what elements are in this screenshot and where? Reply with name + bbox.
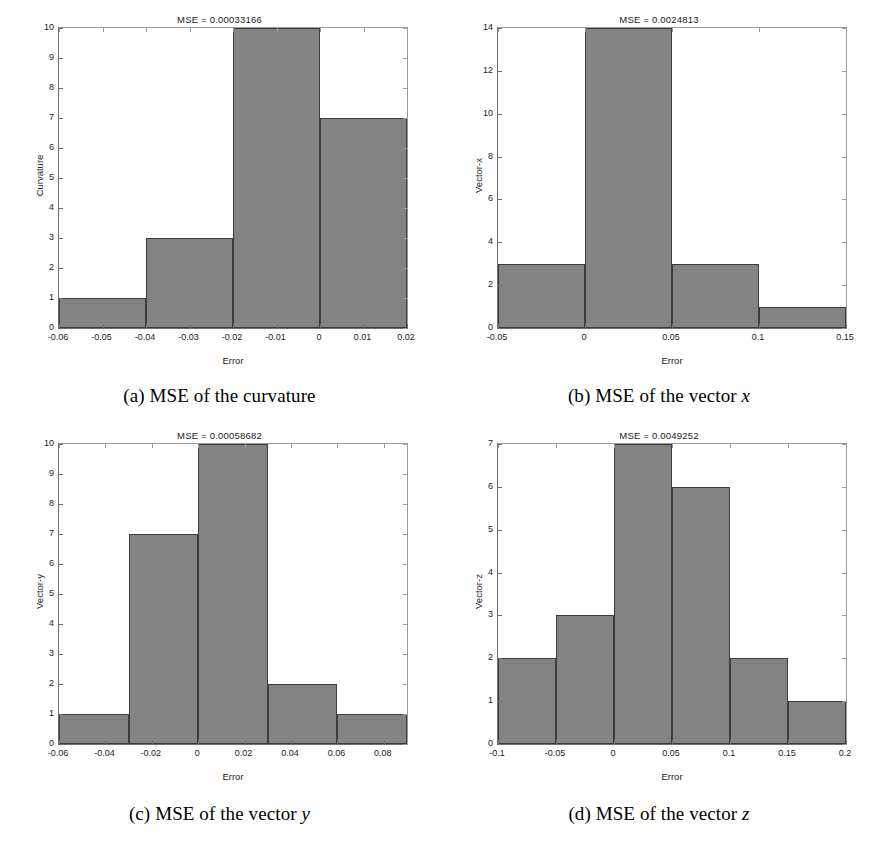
x-axis-tick-top — [364, 28, 365, 32]
y-axis-tick-label: 9 — [24, 52, 54, 62]
histogram-bar — [614, 444, 672, 744]
x-axis-tick — [407, 324, 408, 328]
histogram-bar — [59, 714, 129, 744]
y-axis-tick-right — [842, 530, 846, 531]
caption-b: (b) MSE of the vector x — [439, 385, 879, 407]
histogram-bar — [498, 658, 556, 744]
x-axis-tick-label: 0.15 — [836, 332, 854, 342]
y-axis-tick — [498, 530, 502, 531]
y-axis-tick — [59, 178, 63, 179]
y-axis-tick — [498, 658, 502, 659]
x-axis-tick — [291, 740, 292, 744]
x-axis-tick-top — [846, 444, 847, 448]
y-axis-tick-label: 8 — [24, 82, 54, 92]
y-axis-tick-label: 2 — [463, 652, 493, 662]
caption-a-text: (a) MSE of the curvature — [123, 385, 315, 406]
y-axis-tick-label: 9 — [24, 468, 54, 478]
histogram-bar — [556, 615, 614, 744]
y-axis-tick — [498, 615, 502, 616]
x-axis-tick-top — [320, 28, 321, 32]
y-axis-tick-right — [403, 624, 407, 625]
x-axis-tick-top — [146, 28, 147, 32]
y-axis-tick-label: 14 — [463, 22, 493, 32]
y-axis-tick — [498, 328, 502, 329]
y-axis-tick-label: 4 — [463, 236, 493, 246]
y-axis-tick-label: 4 — [24, 618, 54, 628]
histogram-bar — [129, 534, 199, 744]
x-axis-tick — [585, 324, 586, 328]
y-axis-tick-label: 4 — [24, 202, 54, 212]
y-axis-tick-right — [842, 744, 846, 745]
x-axis-tick-label: 0.04 — [281, 748, 299, 758]
plot-title-a: MSE = 0.00033166 — [0, 14, 439, 25]
y-axis-tick — [59, 744, 63, 745]
histogram-bar — [337, 714, 407, 744]
y-axis-tick-right — [403, 474, 407, 475]
axes-a — [58, 27, 408, 329]
x-axis-tick-label: -0.03 — [178, 332, 199, 342]
y-axis-tick-label: 10 — [24, 22, 54, 32]
x-axis-tick — [672, 324, 673, 328]
caption-c-text: (c) MSE of the vector — [129, 803, 302, 824]
y-axis-tick-label: 7 — [24, 112, 54, 122]
plot-title-b: MSE = 0.0024813 — [439, 14, 879, 25]
y-axis-tick-right — [403, 504, 407, 505]
y-axis-tick — [59, 268, 63, 269]
x-axis-tick-top — [556, 444, 557, 448]
panel-d: MSE = 0.0049252 Vector-z Error (d) MSE o… — [439, 420, 879, 859]
caption-d-text: (d) MSE of the vector — [568, 803, 742, 824]
y-axis-tick-right — [842, 615, 846, 616]
x-axis-tick-label: -0.01 — [265, 332, 286, 342]
y-axis-tick — [498, 444, 502, 445]
y-axis-tick — [498, 157, 502, 158]
x-axis-tick — [846, 740, 847, 744]
y-axis-tick-label: 0 — [24, 738, 54, 748]
x-axis-tick — [320, 324, 321, 328]
x-axis-tick-top — [152, 444, 153, 448]
histogram-bar — [730, 658, 788, 744]
x-axis-tick-label: 0 — [581, 332, 586, 342]
plotarea-b — [498, 28, 846, 328]
y-axis-tick-right — [842, 114, 846, 115]
y-axis-tick-right — [403, 178, 407, 179]
x-axis-tick-top — [672, 28, 673, 32]
y-axis-tick-label: 3 — [24, 232, 54, 242]
ylabel-b: Vector-x — [473, 131, 484, 221]
x-axis-tick-label: -0.04 — [94, 748, 115, 758]
x-axis-tick-top — [198, 444, 199, 448]
x-axis-tick-label: 0.02 — [235, 748, 253, 758]
y-axis-tick — [498, 114, 502, 115]
y-axis-tick-label: 0 — [24, 322, 54, 332]
x-axis-tick-top — [846, 28, 847, 32]
y-axis-tick — [498, 28, 502, 29]
x-axis-tick-top — [233, 28, 234, 32]
y-axis-tick-right — [842, 199, 846, 200]
x-axis-tick-label: -0.04 — [135, 332, 156, 342]
y-axis-tick — [59, 148, 63, 149]
x-axis-tick-top — [384, 444, 385, 448]
y-axis-tick-right — [842, 701, 846, 702]
y-axis-tick-right — [403, 594, 407, 595]
y-axis-tick-label: 5 — [24, 588, 54, 598]
y-axis-tick-label: 5 — [24, 172, 54, 182]
y-axis-tick-right — [842, 242, 846, 243]
y-axis-tick-right — [403, 28, 407, 29]
y-axis-tick — [498, 242, 502, 243]
y-axis-tick — [498, 199, 502, 200]
y-axis-tick-right — [842, 328, 846, 329]
y-axis-tick-right — [403, 238, 407, 239]
x-axis-tick — [788, 740, 789, 744]
histogram-bar — [672, 264, 759, 328]
y-axis-tick-right — [403, 118, 407, 119]
y-axis-tick-label: 6 — [24, 142, 54, 152]
x-axis-tick — [384, 740, 385, 744]
histogram-bar — [498, 264, 585, 328]
x-axis-tick — [846, 324, 847, 328]
caption-c: (c) MSE of the vector y — [0, 803, 439, 825]
y-axis-tick — [59, 684, 63, 685]
x-axis-tick-label: -0.1 — [489, 748, 505, 758]
y-axis-tick-label: 4 — [463, 567, 493, 577]
plotarea-d — [498, 444, 846, 744]
x-axis-tick-label: 0.06 — [328, 748, 346, 758]
x-axis-tick-label: 0.2 — [839, 748, 852, 758]
